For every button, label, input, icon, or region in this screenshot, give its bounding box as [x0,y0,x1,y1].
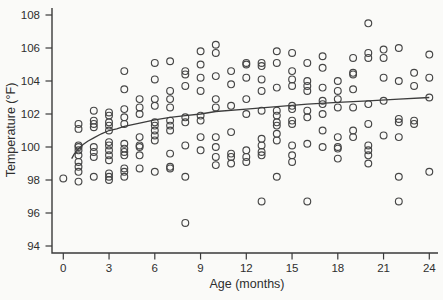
data-point [167,104,174,111]
data-point [167,58,174,65]
data-point [380,46,387,53]
data-point [365,55,372,62]
data-point [197,88,204,95]
data-point [197,61,204,68]
data-point [258,142,265,149]
data-point [395,45,402,52]
data-point [273,137,280,144]
data-point [136,134,143,141]
data-point [151,60,158,67]
data-point [243,147,250,154]
data-point [121,106,128,113]
data-point [380,97,387,104]
x-tick-label: 15 [286,262,299,274]
data-point [334,155,341,162]
y-tick-label: 106 [21,42,40,54]
data-point [75,152,82,159]
data-point [75,178,82,185]
data-point [90,107,97,114]
data-point [228,102,235,109]
data-point [212,162,219,169]
data-point [334,96,341,103]
data-point [350,55,357,62]
data-point [365,20,372,27]
data-point [197,74,204,81]
data-point [289,152,296,159]
data-point [365,160,372,167]
x-tick-label: 18 [331,262,344,274]
data-point [212,134,219,141]
data-point [90,154,97,161]
data-point [182,220,189,227]
data-point [136,96,143,103]
data-point [334,104,341,111]
data-point [319,64,326,71]
data-point [319,53,326,60]
x-tick-label: 12 [240,262,253,274]
data-point [212,41,219,48]
data-point [182,173,189,180]
data-point [273,173,280,180]
data-point [212,73,219,80]
x-tick-label: 21 [377,262,390,274]
data-point [136,152,143,159]
data-point [151,137,158,144]
data-point [136,111,143,118]
data-point [304,114,311,121]
data-point [426,74,433,81]
scatter-points [60,20,433,226]
data-point [167,150,174,157]
data-point [182,142,189,149]
data-point [243,74,250,81]
data-point [319,127,326,134]
data-point [136,104,143,111]
data-point [121,114,128,121]
data-point [121,68,128,75]
data-point [258,198,265,205]
y-axis-ticks: 949698100102104106108 [21,9,52,252]
data-point [289,142,296,149]
data-point [197,117,204,124]
data-point [334,134,341,141]
data-point [121,86,128,93]
data-point [75,125,82,132]
data-point [365,101,372,108]
data-point [304,88,311,95]
data-point [197,134,204,141]
data-point [395,134,402,141]
data-point [228,68,235,75]
data-point [212,96,219,103]
x-tick-label: 6 [152,262,158,274]
data-point [273,84,280,91]
x-axis-title: Age (months) [209,277,284,291]
data-point [365,121,372,128]
data-point [411,69,418,76]
data-point [426,51,433,58]
data-point [106,157,113,164]
data-point [273,60,280,67]
data-point [304,140,311,147]
data-point [289,76,296,83]
data-point [350,86,357,93]
y-tick-label: 104 [21,75,41,87]
data-point [273,48,280,55]
data-point [212,50,219,57]
data-point [304,107,311,114]
data-point [334,78,341,85]
data-point [334,88,341,95]
data-point [289,50,296,57]
data-point [289,159,296,166]
data-point [304,198,311,205]
data-point [228,81,235,88]
data-point [319,144,326,151]
data-point [212,144,219,151]
data-point [258,88,265,95]
data-point [243,159,250,166]
data-point [90,173,97,180]
x-tick-label: 0 [60,262,66,274]
y-tick-label: 102 [21,108,40,120]
data-point [289,83,296,90]
data-point [60,175,67,182]
data-point [395,78,402,85]
x-axis-ticks: 03691215182124 [60,253,436,274]
